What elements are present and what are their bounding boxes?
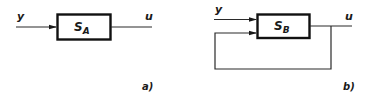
diagram-b: y SB u b) — [214, 3, 355, 92]
caption-b: b) — [343, 81, 355, 92]
block-diagrams: y SA u a) y SB u b) — [0, 0, 368, 98]
output-label-a: u — [145, 10, 153, 23]
input-label-a: y — [17, 10, 25, 23]
diagram-a: y SA u a) — [16, 10, 153, 92]
input-label-b: y — [215, 3, 223, 16]
output-label-b: u — [345, 10, 353, 23]
caption-a: a) — [142, 81, 153, 92]
